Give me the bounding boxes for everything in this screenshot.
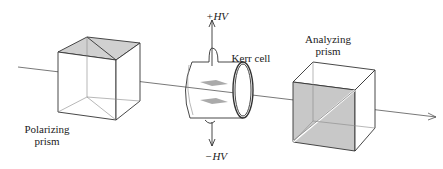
analyzing-prism-label: Analyzing prism [298,33,358,57]
label-line: prism [12,135,82,147]
label-line: Polarizing [12,123,82,135]
kerr-cell [185,20,253,146]
minus-hv-label: −HV [196,150,236,162]
polarizing-prism [58,37,140,120]
electrode-top [200,80,228,86]
label-line: Analyzing [298,33,358,45]
label-line: prism [298,45,358,57]
electrode-bottom [200,98,228,104]
polarizing-prism-label: Polarizing prism [12,123,82,147]
kerr-cell-label: Kerr cell [226,52,276,64]
plus-hv-label: +HV [197,10,237,22]
analyzing-prism [293,62,375,151]
